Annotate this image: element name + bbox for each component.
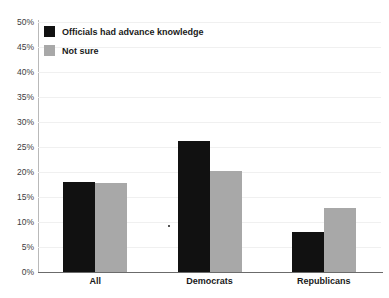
- y-tick-label: 10%: [2, 218, 34, 226]
- x-tick-label: All: [38, 276, 152, 287]
- x-axis-line: [38, 272, 383, 273]
- bar: [292, 232, 324, 272]
- bar: [324, 208, 356, 272]
- y-tick-label: 50%: [2, 18, 34, 26]
- y-tick-label: 20%: [2, 168, 34, 176]
- bar: [95, 183, 127, 272]
- y-tick-label: 30%: [2, 118, 34, 126]
- x-tick-label: Democrats: [152, 276, 266, 287]
- y-tick-label: 0%: [2, 268, 34, 276]
- artifact-speck: [168, 225, 170, 227]
- bar-group: [292, 22, 356, 272]
- bar: [63, 182, 95, 272]
- y-tick-label: 40%: [2, 68, 34, 76]
- y-tick-label: 25%: [2, 143, 34, 151]
- y-tick-label: 5%: [2, 243, 34, 251]
- bar: [210, 171, 242, 272]
- legend-swatch-icon: [44, 45, 55, 56]
- y-tick-label: 15%: [2, 193, 34, 201]
- x-tick-label: Republicans: [267, 276, 381, 287]
- bar: [178, 141, 210, 273]
- legend-label: Officials had advance knowledge: [62, 27, 204, 37]
- legend-label: Not sure: [62, 46, 99, 56]
- y-tick-label: 45%: [2, 43, 34, 51]
- y-tick-label: 35%: [2, 93, 34, 101]
- legend-item: Not sure: [44, 43, 204, 58]
- chart-legend: Officials had advance knowledgeNot sure: [44, 24, 204, 62]
- bar-chart: 50%45%40%35%30%25%20%15%10%5%0% AllDemoc…: [0, 0, 389, 298]
- legend-item: Officials had advance knowledge: [44, 24, 204, 39]
- legend-swatch-icon: [44, 26, 55, 37]
- y-axis-tick-labels: 50%45%40%35%30%25%20%15%10%5%0%: [0, 0, 34, 298]
